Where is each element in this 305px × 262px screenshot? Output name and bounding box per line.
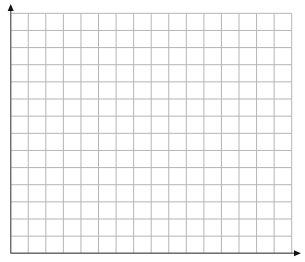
x-axis-arrow-icon bbox=[294, 250, 301, 256]
y-axis-arrow-icon bbox=[8, 4, 14, 11]
grid-lines bbox=[11, 13, 292, 253]
grid-canvas bbox=[0, 0, 305, 262]
coordinate-grid-diagram bbox=[0, 0, 305, 262]
